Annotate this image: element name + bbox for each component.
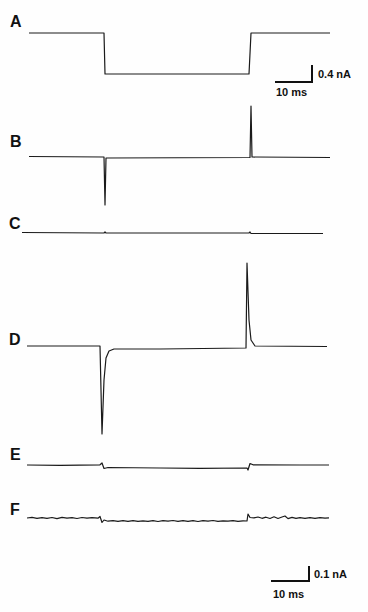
scale-bottom-time-label: 10 ms <box>273 588 304 600</box>
panel-label-e: E <box>10 446 21 463</box>
scale-bar-top: 0.4 nA 10 ms <box>275 65 351 98</box>
trace-e <box>27 463 329 470</box>
panel-label-f: F <box>10 501 20 518</box>
scale-bar-bottom-lines <box>271 566 309 581</box>
scale-bar-bottom: 0.1 nA 10 ms <box>271 566 347 600</box>
trace-d <box>27 263 327 434</box>
scale-bar-top-lines <box>275 65 312 82</box>
panel-label-b: B <box>10 133 22 150</box>
panel-label-d: D <box>9 331 21 348</box>
panel-label-a: A <box>10 13 22 30</box>
trace-f <box>27 514 329 523</box>
trace-c <box>22 232 323 234</box>
traces-canvas: A B C D E F 0.4 nA 10 ms 0.1 nA 10 ms <box>0 0 368 612</box>
trace-b <box>29 106 330 205</box>
scale-bottom-current-label: 0.1 nA <box>314 568 347 580</box>
scale-top-time-label: 10 ms <box>276 86 307 98</box>
scale-top-current-label: 0.4 nA <box>318 68 351 80</box>
panel-label-c: C <box>9 215 21 232</box>
figure: A B C D E F 0.4 nA 10 ms 0.1 nA 10 ms <box>0 0 368 612</box>
trace-a <box>29 33 330 74</box>
